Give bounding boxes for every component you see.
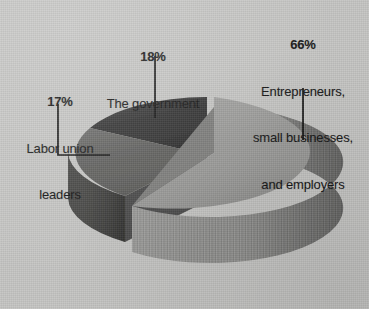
slice-label-entrepreneurs: 66% Entrepreneurs, small businesses, and…	[239, 6, 367, 223]
slice-desc-entrepreneurs-line1: Entrepreneurs,	[239, 84, 367, 100]
slice-percent-entrepreneurs: 66%	[239, 37, 367, 53]
slice-desc-labor-union-line2: leaders	[2, 187, 118, 203]
slice-desc-entrepreneurs-line2: small businesses,	[239, 130, 367, 146]
slice-percent-labor-union: 17%	[2, 94, 118, 110]
slice-label-labor-union: 17% Labor union leaders	[2, 63, 118, 234]
pie-chart-figure: 66% Entrepreneurs, small businesses, and…	[0, 0, 369, 309]
slice-desc-entrepreneurs-line3: and employers	[239, 177, 367, 193]
slice-desc-labor-union-line1: Labor union	[2, 141, 118, 157]
